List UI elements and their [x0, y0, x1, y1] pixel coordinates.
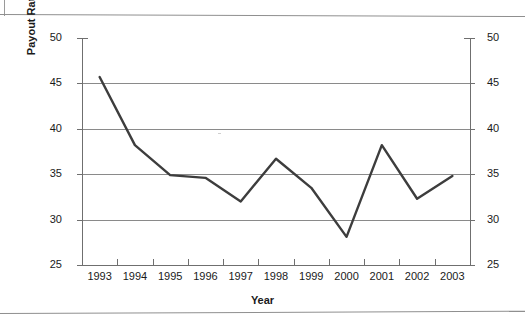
x-tick-label-1999: 1999 — [291, 270, 331, 282]
x-axis-title: Year — [0, 294, 525, 306]
y-tick-label-left-30: 30 — [50, 214, 62, 225]
y-tick-mark-right-25 — [470, 265, 475, 266]
line-chart: 253035404550 253035404550 19931994199519… — [0, 0, 525, 330]
y-tick-label-right-50: 50 — [487, 32, 499, 43]
x-tick-label-2003: 2003 — [432, 270, 472, 282]
x-axis-line — [82, 265, 470, 266]
x-tick-6 — [294, 259, 295, 265]
scan-speckle — [218, 133, 221, 134]
x-tick-label-1997: 1997 — [221, 270, 261, 282]
x-tick-1 — [117, 259, 118, 265]
x-tick-label-1993: 1993 — [80, 270, 120, 282]
x-tick-label-1996: 1996 — [185, 270, 225, 282]
y-tick-label-right-25: 25 — [487, 259, 499, 270]
y-tick-label-right-35: 35 — [487, 168, 499, 179]
y-tick-label-left-25: 25 — [50, 259, 62, 270]
x-tick-8 — [364, 259, 365, 265]
y-axis-line-right — [470, 38, 471, 265]
x-tick-5 — [258, 259, 259, 265]
chart-page: 253035404550 253035404550 19931994199519… — [0, 0, 525, 330]
x-tick-label-1998: 1998 — [256, 270, 296, 282]
y-tick-label-left-50: 50 — [50, 32, 62, 43]
gridline-45 — [82, 83, 470, 84]
y-tick-label-left-35: 35 — [50, 168, 62, 179]
x-tick-label-1994: 1994 — [115, 270, 155, 282]
y-tick-label-right-40: 40 — [487, 123, 499, 134]
y-tick-label-left-40: 40 — [50, 123, 62, 134]
x-tick-9 — [399, 259, 400, 265]
x-tick-label-2000: 2000 — [327, 270, 367, 282]
x-tick-2 — [153, 259, 154, 265]
x-tick-4 — [223, 259, 224, 265]
y-tick-label-right-45: 45 — [487, 77, 499, 88]
gridline-30 — [82, 220, 470, 221]
y-tick-label-left-45: 45 — [50, 77, 62, 88]
gridline-40 — [82, 129, 470, 130]
y-axis-line-left — [82, 38, 83, 265]
x-tick-3 — [188, 259, 189, 265]
x-tick-label-2001: 2001 — [362, 270, 402, 282]
gridline-35 — [82, 174, 470, 175]
y-axis-title: Payout Rate (Percent) — [25, 0, 37, 78]
y-tick-label-right-30: 30 — [487, 214, 499, 225]
x-tick-10 — [435, 259, 436, 265]
x-tick-label-2002: 2002 — [397, 270, 437, 282]
x-tick-label-1995: 1995 — [150, 270, 190, 282]
x-tick-7 — [329, 259, 330, 265]
